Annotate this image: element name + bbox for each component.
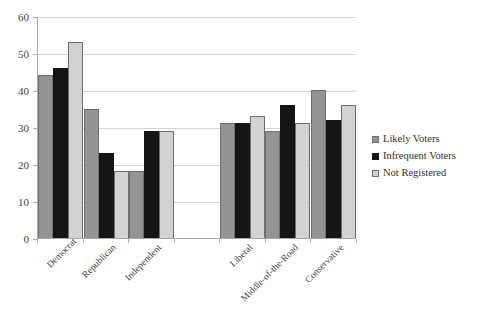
bar [114,171,129,238]
legend-swatch-not-registered [372,170,379,177]
bar [129,171,144,238]
legend-label: Infrequent Voters [383,151,456,162]
y-tick-label: 30 [18,123,29,134]
bar [144,131,159,238]
bar-group [129,17,174,238]
bar-group [311,17,356,238]
legend-item: Likely Voters [372,131,484,148]
y-tick-label: 0 [24,234,30,245]
bar [159,131,174,238]
y-tick-label: 50 [18,49,29,60]
bar [326,120,341,238]
bar-chart: 0102030405060 DemocratRepublicanIndepend… [0,0,484,321]
bar [68,42,83,238]
bar-group [265,17,310,238]
plot-area [37,17,356,239]
bar [295,123,310,238]
legend-item: Infrequent Voters [372,148,484,165]
bar [220,123,235,238]
bar [84,109,99,239]
bar [280,105,295,238]
bar-groups [38,17,356,238]
bar [38,75,53,238]
y-tick-label: 20 [18,160,29,171]
bar [250,116,265,238]
x-tick-label: Independent [72,243,164,321]
x-tick-label: Democrat [45,243,72,270]
legend-label: Likely Voters [383,134,439,145]
x-axis-labels: DemocratRepublicanIndependentLiberalMidd… [37,243,356,321]
bar [265,131,280,238]
legend-swatch-infrequent-voters [372,153,379,160]
legend-swatch-likely-voters [372,136,379,143]
chart-legend: Likely VotersInfrequent VotersNot Regist… [372,131,484,182]
bar [311,90,326,238]
bar-group [38,17,83,238]
bar [235,123,250,238]
legend-label: Not Registered [383,168,446,179]
x-tick-mark [356,239,357,243]
bar-group-empty [174,17,219,238]
bar-group [83,17,128,238]
bar [53,68,68,238]
legend-item: Not Registered [372,165,484,182]
bar [341,105,356,238]
y-tick-label: 10 [18,197,29,208]
y-tick-label: 40 [18,86,29,97]
y-axis: 0102030405060 [0,17,37,239]
y-tick-label: 60 [18,12,29,23]
bar-group [220,17,265,238]
bar [99,153,114,238]
